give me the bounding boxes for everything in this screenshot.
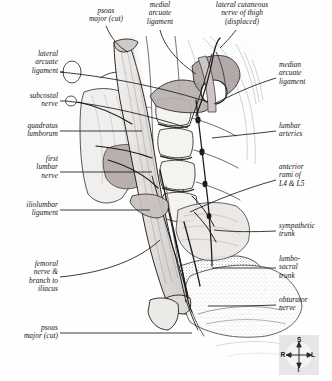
label-medial-arcuate-ligament: medial arcuate ligament [128, 1, 192, 26]
figure-canvas: psoas major (cut) medial arcuate ligamen… [0, 0, 332, 381]
label-quadratus-lumborum: quadratus lumborum [0, 122, 58, 139]
compass-label-right: R [281, 352, 286, 359]
label-psoas-major-cut-bottom: psoas major (cut) [0, 324, 58, 341]
compass-label-superior: S [297, 337, 301, 344]
label-sympathetic-trunk: sympathetic trunk [279, 222, 331, 239]
label-first-lumbar-nerve: first lumbar nerve [0, 155, 58, 180]
label-anterior-rami-l4-l5: anterior rami of L4 & L5 [279, 163, 331, 188]
compass-label-left: L [311, 352, 315, 359]
label-lumbar-arteries: lumbar arteries [279, 122, 331, 139]
label-iliolumbar-ligament: iliolumbar ligament [0, 201, 58, 218]
orientation-compass: S I R L [279, 335, 319, 375]
label-lateral-cutaneous-nerve-of-thigh: lateral cutaneous nerve of thigh (displa… [196, 1, 288, 26]
label-lumbosacral-trunk: lumbo- sacral trunk [279, 255, 331, 280]
label-femoral-nerve-and-branch-to-iliacus: femoral nerve & branch to iliacus [0, 260, 58, 294]
label-obturator-nerve: obturator nerve [279, 296, 331, 313]
compass-label-inferior: I [298, 367, 300, 374]
label-median-arcuate-ligament: median arcuate ligament [279, 61, 331, 86]
label-subcostal-nerve: subcostal nerve [0, 92, 58, 109]
label-lateral-arcuate-ligament: lateral arcuate ligament [0, 50, 58, 75]
